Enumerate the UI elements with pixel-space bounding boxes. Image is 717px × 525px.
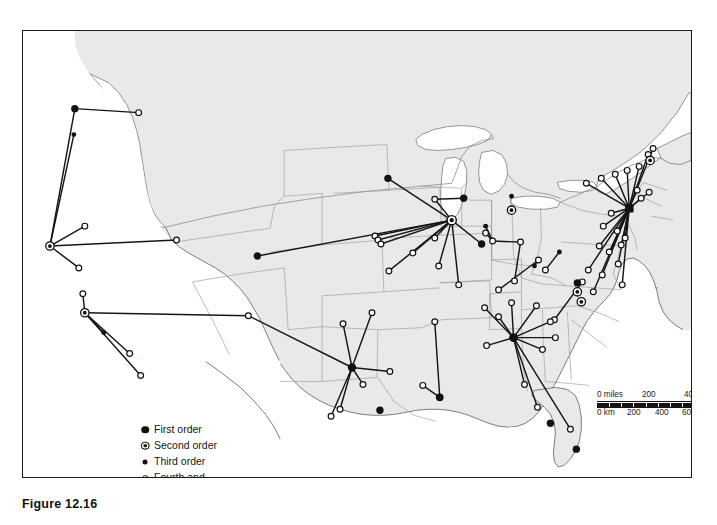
fourth-order-marker: [80, 291, 86, 297]
third-order-marker: [71, 132, 76, 137]
first-order-marker: [478, 240, 485, 247]
second-order-marker: [447, 216, 456, 225]
first-order-marker: [254, 252, 261, 259]
fourth-order-marker: [518, 239, 524, 245]
fourth-order-marker: [432, 319, 438, 325]
scale-miles-labels: 0 miles 200 400: [597, 390, 692, 401]
fourth-order-marker: [553, 335, 559, 341]
scale-miles-unit: 0 miles: [597, 390, 623, 399]
legend-label: Second order: [154, 439, 217, 452]
scale-miles-tick-2: 400: [684, 390, 692, 399]
scale-km-tick-2: 400: [655, 408, 669, 417]
figure-caption: Figure 12.16: [22, 497, 97, 511]
fourth-order-marker: [484, 343, 490, 349]
fourth-order-marker: [615, 261, 621, 267]
fourth-order-marker: [436, 263, 442, 269]
legend-label: Third order: [154, 455, 205, 468]
second-order-marker: [646, 156, 654, 164]
fourth-order-marker: [606, 249, 612, 255]
fourth-order-marker: [612, 171, 618, 177]
legend-item-first-order: First order: [136, 423, 261, 438]
fourth-order-marker: [512, 278, 518, 284]
fourth-order-marker: [82, 223, 88, 229]
first-order-marker: [460, 195, 467, 202]
third-order-marker: [483, 224, 488, 229]
figure-page: First order Second order Third order Fou…: [0, 0, 717, 525]
fourth-order-marker: [622, 235, 628, 241]
fourth-order-marker: [432, 235, 438, 241]
fourth-order-marker: [420, 383, 426, 389]
fourth-order-marker: [618, 242, 624, 248]
lake-erie: [511, 196, 561, 209]
first-order-marker: [376, 407, 383, 414]
fourth-order-marker: [646, 189, 652, 195]
fourth-order-marker: [596, 243, 602, 249]
fourth-order-marker: [540, 347, 546, 353]
third-order-marker: [509, 194, 514, 199]
legend-label: Fourth and fifth orders: [154, 471, 205, 478]
fourth-order-marker: [543, 267, 549, 273]
fourth-order-marker: [360, 382, 366, 388]
fourth-order-marker: [490, 238, 496, 244]
fourth-order-marker: [548, 319, 554, 325]
landmass-layer: [23, 31, 691, 477]
fourth-order-marker: [590, 289, 596, 295]
fourth-order-marker: [369, 310, 375, 316]
us-flow-map: [23, 31, 691, 477]
fourth-order-marker-icon: [136, 471, 154, 478]
fourth-order-marker: [614, 228, 620, 234]
scale-bar-graphic: [597, 403, 692, 407]
fourth-order-marker: [245, 313, 251, 319]
map-legend: First order Second order Third order Fou…: [136, 423, 261, 478]
fourth-order-marker: [598, 175, 604, 181]
map-scale-bar: 0 miles 200 400 0 km 200 400 600: [597, 390, 692, 418]
fourth-order-marker: [567, 426, 573, 432]
fourth-order-marker: [127, 351, 133, 357]
fourth-order-marker: [410, 250, 416, 256]
scale-km-tick-1: 200: [627, 408, 641, 417]
legend-label: First order: [154, 423, 202, 436]
fourth-order-marker: [634, 187, 640, 193]
fourth-order-marker: [583, 180, 589, 186]
third-order-marker: [557, 250, 562, 255]
fourth-order-marker: [328, 413, 334, 419]
fourth-order-marker: [509, 300, 515, 306]
fourth-order-marker: [599, 272, 605, 278]
fourth-order-marker: [496, 314, 502, 320]
fourth-order-marker: [496, 287, 502, 293]
first-order-marker: [573, 445, 580, 452]
fourth-order-marker: [522, 382, 528, 388]
fourth-order-marker: [136, 110, 142, 116]
legend-item-third-order: Third order: [136, 455, 261, 470]
flow-link: [435, 198, 464, 199]
fourth-order-marker: [483, 230, 489, 236]
first-order-marker: [547, 420, 554, 427]
scale-km-tick-3: 600: [682, 408, 692, 417]
fourth-order-marker: [340, 321, 346, 327]
second-order-marker: [81, 309, 89, 317]
second-order-marker: [573, 288, 581, 296]
fourth-order-marker: [608, 210, 614, 216]
fourth-order-marker: [534, 303, 540, 309]
fourth-order-marker: [386, 268, 392, 274]
second-order-marker-icon: [136, 439, 154, 452]
first-order-marker: [625, 204, 633, 212]
second-order-marker: [46, 242, 54, 250]
fourth-order-marker: [624, 167, 630, 173]
fourth-order-marker: [585, 267, 591, 273]
map-frame: First order Second order Third order Fou…: [22, 30, 692, 478]
first-order-marker: [509, 333, 518, 342]
third-order-marker: [532, 264, 537, 269]
first-order-marker: [436, 393, 444, 401]
fourth-order-marker: [456, 282, 462, 288]
fourth-order-marker: [387, 369, 393, 375]
second-order-marker: [507, 206, 515, 214]
fourth-order-marker: [535, 404, 541, 410]
flow-link: [493, 241, 521, 242]
fourth-order-marker: [76, 265, 82, 271]
scale-miles-tick-1: 200: [642, 390, 656, 399]
scan-speck: [656, 287, 658, 289]
fourth-order-marker: [619, 282, 625, 288]
first-order-marker-icon: [136, 423, 154, 436]
third-order-marker: [101, 330, 106, 335]
